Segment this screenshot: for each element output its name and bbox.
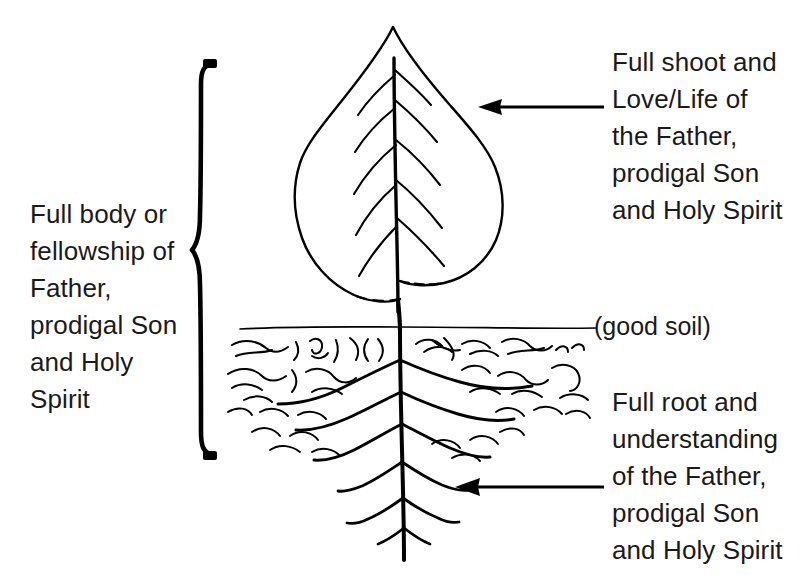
label-good-soil: (good soil) xyxy=(594,310,711,342)
leaf-veins xyxy=(354,70,444,276)
arrow-pointing-to-root xyxy=(455,478,604,496)
label-full-shoot: Full shoot and Love/Life of the Father, … xyxy=(612,44,807,229)
diagram-canvas: Full body or fellowship of Father, prodi… xyxy=(0,0,808,575)
label-full-body-fellowship: Full body or fellowship of Father, prodi… xyxy=(30,196,205,418)
arrow-pointing-to-shoot xyxy=(478,99,604,115)
taproot xyxy=(338,330,468,560)
lateral-root-system xyxy=(278,360,532,460)
soil-surface-line xyxy=(240,327,596,329)
soil-squiggles xyxy=(228,338,590,461)
plant-stem xyxy=(398,300,400,330)
label-full-root: Full root and understanding of the Fathe… xyxy=(612,384,807,569)
